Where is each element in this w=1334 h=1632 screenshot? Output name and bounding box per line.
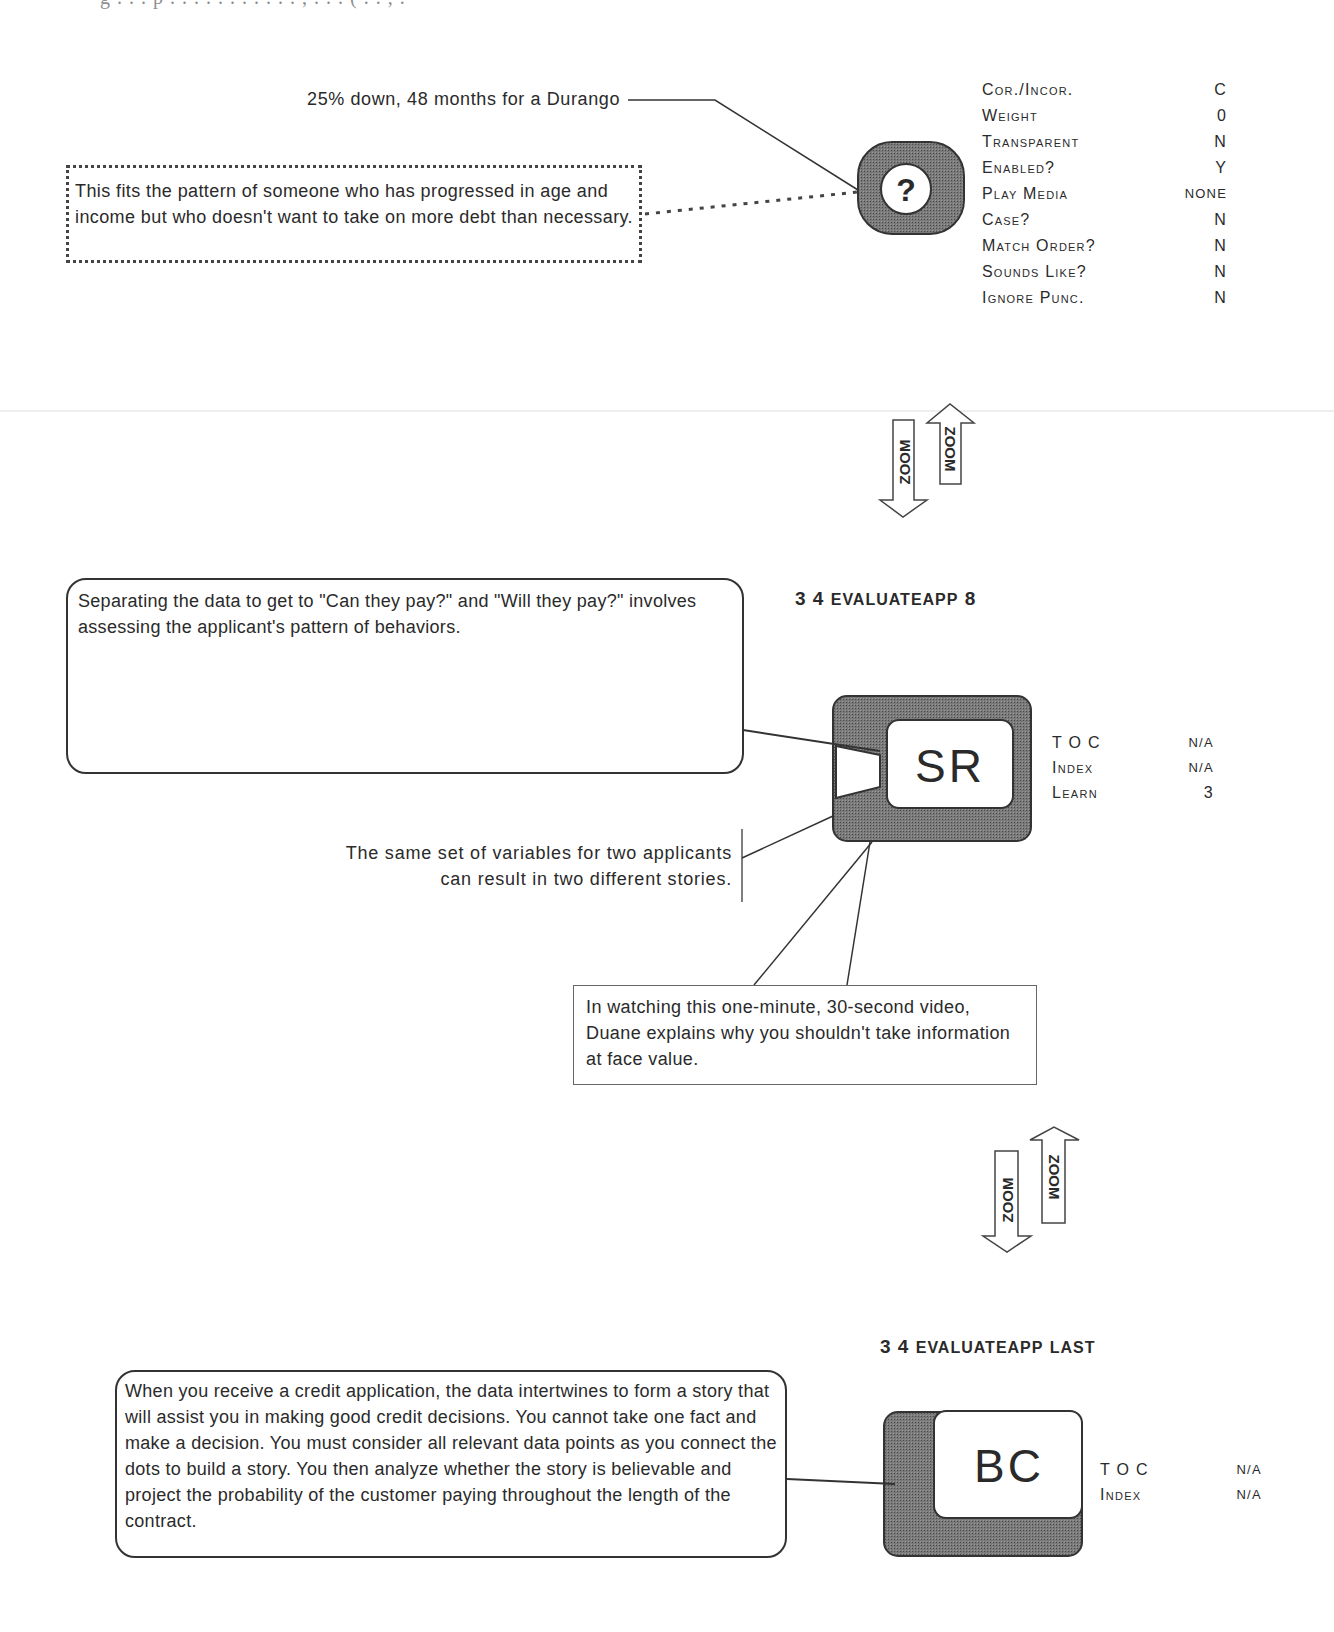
callout-same-variables: The same set of variables for two applic… xyxy=(260,840,732,892)
callout-pattern-note: This fits the pattern of someone who has… xyxy=(66,165,642,263)
screen-heading-bc: 3 4 EvaluateApp Last xyxy=(880,1336,1096,1358)
property-row: IndexN/A xyxy=(1052,755,1214,780)
clipped-header-text: g . . . p . . . . . . . . . . . , . . . … xyxy=(100,0,406,9)
sr-screen-button[interactable]: SR xyxy=(833,696,1031,841)
sr-properties: T O CN/A IndexN/A Learn3 xyxy=(1052,730,1214,805)
screen-heading-sr: 3 4 EvaluateApp 8 xyxy=(795,588,976,610)
property-row: Enabled?Y xyxy=(982,155,1227,181)
question-button[interactable] xyxy=(858,142,964,234)
callout-credit-application: When you receive a credit application, t… xyxy=(115,1370,787,1558)
property-row: Learn3 xyxy=(1052,780,1214,805)
bc-properties: T O CN/A IndexN/A xyxy=(1100,1457,1262,1507)
callout-separating-text: Separating the data to get to "Can they … xyxy=(78,591,696,637)
callout-pattern-text: This fits the pattern of someone who has… xyxy=(75,181,633,227)
property-row: Sounds Like?N xyxy=(982,259,1227,285)
screen-name: EvaluateApp xyxy=(916,1339,1044,1356)
property-row: Play MediaNONE xyxy=(982,181,1227,207)
property-row: Match Order?N xyxy=(982,233,1227,259)
property-row: Cor./Incor.C xyxy=(982,77,1227,103)
callout-separating-data: Separating the data to get to "Can they … xyxy=(66,578,744,774)
question-button-properties: Cor./Incor.C Weight0 TransparentN Enable… xyxy=(982,77,1227,311)
screen-name: EvaluateApp xyxy=(831,591,959,608)
property-row: Case?N xyxy=(982,207,1227,233)
zoom-out-arrow[interactable] xyxy=(1030,1127,1080,1224)
zoom-out-arrow[interactable] xyxy=(927,404,975,485)
zoom-in-arrow[interactable] xyxy=(880,420,928,518)
property-row: IndexN/A xyxy=(1100,1482,1262,1507)
property-row: Weight0 xyxy=(982,103,1227,129)
property-row: T O CN/A xyxy=(1052,730,1214,755)
property-row: TransparentN xyxy=(982,129,1227,155)
zoom-in-arrow[interactable] xyxy=(983,1151,1031,1253)
callout-credit-text: When you receive a credit application, t… xyxy=(125,1381,777,1531)
property-row: Ignore Punc.N xyxy=(982,285,1227,311)
property-row: T O CN/A xyxy=(1100,1457,1262,1482)
bc-screen-button[interactable]: BC xyxy=(884,1412,1082,1556)
callout-durango: 25% down, 48 months for a Durango xyxy=(260,86,620,112)
callout-video-text: In watching this one-minute, 30-second v… xyxy=(586,997,1010,1069)
callout-video-note: In watching this one-minute, 30-second v… xyxy=(573,985,1037,1085)
